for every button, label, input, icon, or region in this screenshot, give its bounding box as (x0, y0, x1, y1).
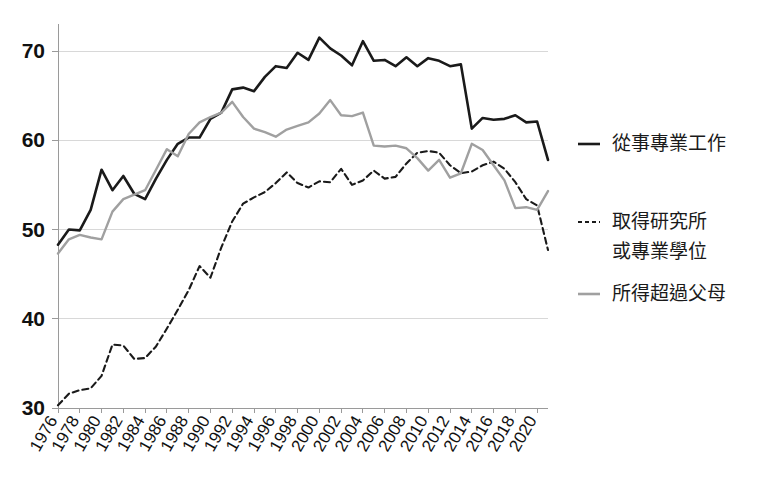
x-axis-tick-labels: 1976197819801982198419861988199019921994… (26, 413, 540, 455)
legend-label-1-line1: 取得研究所 (612, 210, 707, 232)
legend-label-2: 所得超過父母 (612, 282, 726, 304)
chart-container: 3040506070 19761978198019821984198619881… (0, 0, 758, 488)
series-line-0 (58, 38, 548, 245)
y-tick-label-60: 60 (22, 128, 45, 151)
legend-label-1-line2: 或專業學位 (612, 240, 707, 262)
series-line-2 (58, 100, 548, 254)
x-axis-ticks (52, 51, 537, 413)
y-tick-label-70: 70 (22, 39, 45, 62)
y-tick-label-30: 30 (22, 396, 45, 419)
y-tick-label-50: 50 (22, 218, 45, 241)
y-axis-tick-labels: 3040506070 (22, 39, 45, 419)
legend-label-0: 從事專業工作 (612, 132, 726, 154)
data-series (58, 38, 548, 406)
axes (58, 24, 548, 408)
y-tick-label-40: 40 (22, 307, 45, 330)
line-chart: 3040506070 19761978198019821984198619881… (0, 0, 758, 488)
chart-legend: 從事專業工作取得研究所或專業學位所得超過父母 (578, 132, 726, 304)
